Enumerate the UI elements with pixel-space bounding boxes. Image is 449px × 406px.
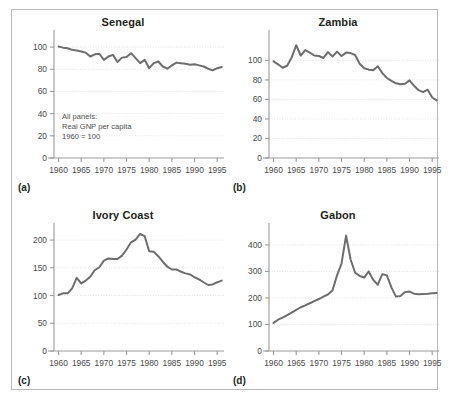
y-tick-label: 60 xyxy=(253,94,263,104)
x-tick-label: 1975 xyxy=(332,358,351,368)
x-tick-label: 1965 xyxy=(72,358,91,368)
x-tick-label: 1970 xyxy=(95,165,114,175)
x-tick-label: 1995 xyxy=(423,358,442,368)
x-tick-label: 1975 xyxy=(117,165,136,175)
panel-ivory-coast: Ivory Coast 0501001502001960196519701975… xyxy=(18,209,228,389)
y-tick-label: 40 xyxy=(38,109,48,119)
series-line xyxy=(59,47,222,71)
y-tick-label: 20 xyxy=(38,131,48,141)
x-tick-label: 1965 xyxy=(287,358,306,368)
x-tick-label: 1965 xyxy=(287,165,306,175)
panel-gabon: Gabon 0100200300400196019651970197519801… xyxy=(233,209,443,389)
y-tick-label: 0 xyxy=(42,346,47,356)
panel-letter-d: (d) xyxy=(233,375,246,386)
x-tick-label: 1985 xyxy=(378,165,397,175)
y-tick-label: 0 xyxy=(257,153,262,163)
x-tick-label: 1970 xyxy=(310,358,329,368)
plot-gabon: 0100200300400196019651970197519801985199… xyxy=(233,209,443,389)
x-tick-label: 1970 xyxy=(95,358,114,368)
y-tick-label: 100 xyxy=(248,319,262,329)
series-line xyxy=(274,236,437,323)
y-tick-label: 80 xyxy=(253,75,263,85)
plot-ivory-coast: 0501001502001960196519701975198019851990… xyxy=(18,209,228,389)
panel-zambia: Zambia 020406080100196019651970197519801… xyxy=(233,16,443,196)
x-tick-label: 1985 xyxy=(163,165,182,175)
panel-letter-c: (c) xyxy=(18,375,30,386)
y-tick-label: 100 xyxy=(248,55,262,65)
x-tick-label: 1995 xyxy=(208,165,227,175)
x-tick-label: 1965 xyxy=(72,165,91,175)
x-tick-label: 1980 xyxy=(355,358,374,368)
y-tick-label: 0 xyxy=(42,153,47,163)
panel-letter-b: (b) xyxy=(233,182,246,193)
panel-senegal: Senegal 02040608010019601965197019751980… xyxy=(18,16,228,196)
x-tick-label: 1980 xyxy=(140,165,159,175)
panel-letter-a: (a) xyxy=(18,182,30,193)
x-tick-label: 1985 xyxy=(378,358,397,368)
y-tick-label: 20 xyxy=(253,133,263,143)
y-tick-label: 150 xyxy=(33,263,47,273)
y-tick-label: 100 xyxy=(33,42,47,52)
x-tick-label: 1960 xyxy=(49,165,68,175)
x-tick-label: 1985 xyxy=(163,358,182,368)
figure-root: Senegal 02040608010019601965197019751980… xyxy=(0,0,449,406)
series-line xyxy=(274,45,437,100)
x-tick-label: 1960 xyxy=(49,358,68,368)
y-tick-label: 200 xyxy=(33,235,47,245)
x-tick-label: 1990 xyxy=(185,358,204,368)
y-tick-label: 200 xyxy=(248,293,262,303)
x-tick-label: 1960 xyxy=(264,358,283,368)
y-tick-label: 80 xyxy=(38,64,48,74)
plot-senegal: 0204060801001960196519701975198019851990… xyxy=(18,16,228,196)
x-tick-label: 1975 xyxy=(117,358,136,368)
x-tick-label: 1995 xyxy=(423,165,442,175)
x-tick-label: 1975 xyxy=(332,165,351,175)
x-tick-label: 1970 xyxy=(310,165,329,175)
y-tick-label: 60 xyxy=(38,86,48,96)
y-tick-label: 300 xyxy=(248,266,262,276)
x-tick-label: 1980 xyxy=(355,165,374,175)
x-tick-label: 1980 xyxy=(140,358,159,368)
x-tick-label: 1960 xyxy=(264,165,283,175)
x-tick-label: 1990 xyxy=(185,165,204,175)
x-tick-label: 1990 xyxy=(400,165,419,175)
series-line xyxy=(59,234,222,295)
plot-zambia: 0204060801001960196519701975198019851990… xyxy=(233,16,443,196)
figure-note: All panels: Real GNP per capita 1960 = 1… xyxy=(62,112,132,143)
y-tick-label: 100 xyxy=(33,291,47,301)
y-tick-label: 50 xyxy=(38,318,48,328)
y-tick-label: 0 xyxy=(257,346,262,356)
x-tick-label: 1990 xyxy=(400,358,419,368)
y-tick-label: 40 xyxy=(253,114,263,124)
y-tick-label: 400 xyxy=(248,240,262,250)
x-tick-label: 1995 xyxy=(208,358,227,368)
